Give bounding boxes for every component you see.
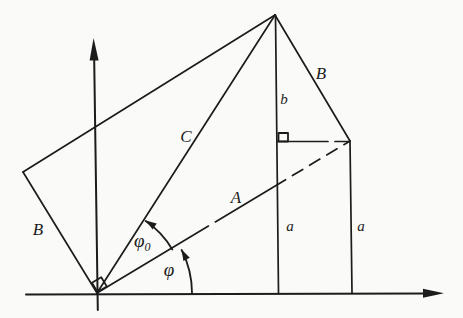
- label-b-segment: b: [280, 91, 288, 107]
- label-b-left: B: [33, 220, 44, 239]
- x-axis: [26, 294, 426, 295]
- label-a-segment-left: a: [286, 218, 294, 234]
- vector-diagram: B B C A b a a φ φ0: [0, 0, 463, 318]
- label-b-right: B: [316, 64, 327, 83]
- label-a-vector: A: [230, 188, 242, 207]
- diagram-canvas: B B C A b a a φ φ0: [0, 0, 463, 318]
- label-c: C: [180, 127, 192, 146]
- figure-background: [0, 0, 463, 318]
- label-phi0-subscript: 0: [145, 240, 151, 254]
- label-phi-angle: φ: [164, 259, 175, 280]
- label-phi0-base: φ: [134, 230, 145, 251]
- label-a-segment-right: a: [357, 218, 365, 234]
